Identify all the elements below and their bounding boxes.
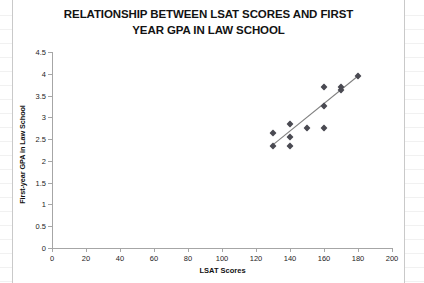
plot-area: 00.511.522.533.544.5 0204060801001201401… xyxy=(0,0,424,283)
trendline xyxy=(0,0,424,283)
